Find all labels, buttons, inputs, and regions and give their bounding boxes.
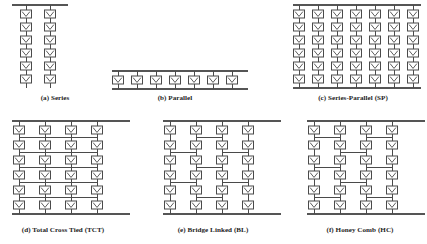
- pv-cell: [313, 10, 324, 18]
- pv-cell: [217, 126, 228, 134]
- pv-cell: [21, 49, 32, 57]
- pv-cell: [40, 201, 51, 209]
- pv-cell: [309, 186, 320, 194]
- pv-cell: [165, 126, 176, 134]
- pv-cell: [243, 141, 254, 149]
- panel-caption-series-parallel: (c) Series-Parallel (SP): [318, 94, 388, 102]
- pv-cell: [243, 186, 254, 194]
- pv-cell: [387, 171, 398, 179]
- pv-cell: [309, 126, 320, 134]
- pv-cell: [45, 62, 56, 70]
- panel-caption-parallel: (b) Parallel: [158, 94, 193, 102]
- pv-cell: [191, 171, 202, 179]
- pv-cell: [389, 23, 400, 31]
- pv-cell: [208, 76, 219, 84]
- pv-cell: [387, 141, 398, 149]
- pv-cell: [408, 36, 419, 44]
- pv-cell: [309, 171, 320, 179]
- pv-cell: [335, 126, 346, 134]
- pv-cell: [21, 10, 32, 18]
- pv-cell: [217, 141, 228, 149]
- pv-cell: [408, 23, 419, 31]
- pv-cell: [389, 49, 400, 57]
- pv-cell: [165, 156, 176, 164]
- pv-cell: [191, 141, 202, 149]
- pv-cell: [332, 36, 343, 44]
- pv-cell: [408, 49, 419, 57]
- pv-cell: [217, 186, 228, 194]
- pv-cell: [21, 62, 32, 70]
- pv-cell: [66, 141, 77, 149]
- pv-cell: [351, 62, 362, 70]
- pv-cell: [45, 10, 56, 18]
- pv-cell: [243, 126, 254, 134]
- pv-cell: [66, 171, 77, 179]
- pv-cell: [165, 186, 176, 194]
- pv-cell: [313, 23, 324, 31]
- pv-cell: [332, 62, 343, 70]
- pv-cell: [92, 126, 103, 134]
- pv-cell: [370, 75, 381, 83]
- pv-cell: [313, 49, 324, 57]
- panel-total-cross-tied: (d) Total Cross Tied (TCT): [12, 121, 130, 234]
- pv-cell: [294, 75, 305, 83]
- panel-bridge-linked: (e) Bridge Linked (BL): [163, 121, 281, 234]
- pv-cell: [165, 141, 176, 149]
- panel-caption-total-cross-tied: (d) Total Cross Tied (TCT): [22, 226, 105, 234]
- pv-cell: [387, 126, 398, 134]
- pv-cell: [294, 36, 305, 44]
- pv-cell: [335, 141, 346, 149]
- pv-cell: [217, 171, 228, 179]
- panel-series-parallel: (c) Series-Parallel (SP): [293, 5, 421, 102]
- pv-cell: [92, 186, 103, 194]
- pv-cell: [332, 23, 343, 31]
- pv-cell: [45, 75, 56, 83]
- pv-cell: [66, 186, 77, 194]
- pv-cell: [21, 36, 32, 44]
- pv-cell: [309, 141, 320, 149]
- pv-cell: [351, 75, 362, 83]
- pv-cell: [351, 49, 362, 57]
- pv-cell: [132, 76, 143, 84]
- pv-cell: [170, 76, 181, 84]
- panel-caption-series: (a) Series: [41, 94, 70, 102]
- pv-cell: [189, 76, 200, 84]
- pv-cell: [165, 171, 176, 179]
- pv-cell: [294, 49, 305, 57]
- pv-cell: [361, 201, 372, 209]
- pv-cell: [21, 23, 32, 31]
- pv-cell: [389, 62, 400, 70]
- pv-cell: [309, 201, 320, 209]
- pv-cell: [389, 10, 400, 18]
- pv-cell: [165, 201, 176, 209]
- pv-cell: [113, 76, 124, 84]
- pv-cell: [191, 126, 202, 134]
- pv-cell: [14, 141, 25, 149]
- pv-cell: [45, 36, 56, 44]
- pv-cell: [370, 62, 381, 70]
- pv-cell: [370, 36, 381, 44]
- pv-cell: [332, 10, 343, 18]
- pv-cell: [313, 62, 324, 70]
- pv-cell: [243, 156, 254, 164]
- pv-cell: [408, 62, 419, 70]
- pv-cell: [92, 141, 103, 149]
- pv-cell: [217, 201, 228, 209]
- pv-cell: [294, 62, 305, 70]
- pv-topology-diagram: (a) Series(b) Parallel(c) Series-Paralle…: [0, 0, 427, 244]
- panel-series: (a) Series: [12, 5, 70, 102]
- pv-cell: [92, 171, 103, 179]
- pv-cell: [243, 201, 254, 209]
- pv-cell: [335, 201, 346, 209]
- pv-cell: [370, 49, 381, 57]
- pv-cell: [14, 156, 25, 164]
- pv-cell: [309, 156, 320, 164]
- pv-cell: [313, 36, 324, 44]
- panel-caption-bridge-linked: (e) Bridge Linked (BL): [178, 226, 249, 234]
- panel-caption-honey-comb: (f) Honey Comb (HC): [327, 226, 395, 234]
- pv-cell: [40, 126, 51, 134]
- pv-cell: [408, 75, 419, 83]
- pv-cell: [66, 201, 77, 209]
- pv-cell: [332, 49, 343, 57]
- panel-wiring-bridge-linked: [163, 121, 281, 214]
